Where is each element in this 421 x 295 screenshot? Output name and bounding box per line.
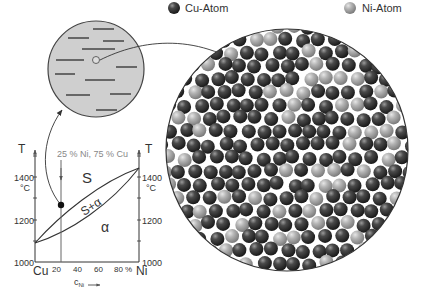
atom: [171, 165, 185, 179]
atom: [288, 124, 302, 138]
atom: [364, 71, 378, 85]
atom: [286, 257, 300, 271]
atom: [240, 46, 254, 60]
atom: [296, 245, 310, 259]
atom: [357, 164, 371, 178]
left-tick-1200: 1200: [14, 216, 34, 226]
atom: [359, 137, 373, 151]
left-unit: °C: [20, 183, 31, 193]
atom: [351, 72, 365, 86]
atom: [273, 125, 287, 139]
atom: [364, 96, 378, 110]
atom: [232, 189, 246, 203]
atom: [288, 204, 302, 218]
atom: [295, 217, 309, 231]
atom: [279, 163, 293, 177]
atom: [311, 136, 325, 150]
atom: [343, 137, 357, 151]
atom: [403, 110, 417, 124]
atom: [357, 113, 371, 127]
atom: [201, 57, 215, 71]
atom: [281, 59, 295, 73]
right-tick-1400: 1400: [142, 173, 162, 183]
atom: [203, 191, 217, 205]
atom: [301, 98, 315, 112]
atom: [366, 177, 380, 191]
atom: [217, 34, 231, 48]
atom: [212, 72, 226, 86]
atom: [325, 111, 339, 125]
atom: [248, 191, 262, 205]
state-point-marker: [58, 202, 64, 208]
atom: [232, 165, 246, 179]
atom: [387, 136, 401, 150]
atom: [162, 98, 176, 112]
atom: [201, 215, 215, 229]
atom: [301, 21, 315, 35]
left-axis-symbol: T: [18, 142, 26, 156]
atom: [359, 85, 373, 99]
atom: [372, 112, 386, 126]
atom: [341, 215, 355, 229]
x-tick-80: 80 %: [114, 265, 132, 274]
atom: [334, 202, 348, 216]
atom: [211, 177, 225, 191]
atom: [263, 192, 277, 206]
atom: [258, 125, 272, 139]
atom: [341, 163, 355, 177]
atom: [396, 98, 410, 112]
legend: Cu-Atom Ni-Atom: [168, 2, 402, 14]
atom: [257, 205, 271, 219]
atom: [257, 178, 271, 192]
atom: [189, 85, 203, 99]
atom: [249, 85, 263, 99]
atom: [335, 44, 349, 58]
atom: [188, 219, 202, 233]
atom: [302, 44, 316, 58]
atom: [302, 124, 316, 138]
atom: [266, 137, 280, 151]
atom: [294, 163, 308, 177]
atom: [273, 98, 287, 112]
atom: [178, 153, 192, 167]
atom: [390, 191, 404, 205]
atom: [232, 243, 246, 257]
atom: [204, 165, 218, 179]
atom: [286, 47, 300, 61]
atom: [250, 33, 264, 47]
atom: [325, 86, 339, 100]
region-two-phase-label: S+α: [78, 195, 104, 219]
composition-label: 25 % Ni, 75 % Cu: [57, 149, 128, 159]
atom: [305, 72, 319, 86]
atom: [326, 216, 340, 230]
atom: [309, 57, 323, 71]
atom: [311, 216, 325, 230]
atom: [296, 136, 310, 150]
atom: [319, 71, 333, 85]
atom: [265, 217, 279, 231]
atom: [335, 229, 349, 243]
x-right-label: Ni: [136, 264, 147, 278]
atom: [225, 149, 239, 163]
atom: [312, 112, 326, 126]
atom: [219, 57, 233, 71]
cu-atom-icon: [168, 2, 180, 14]
atom: [287, 230, 301, 244]
atom: [280, 83, 294, 97]
atom: [301, 230, 315, 244]
legend-cu-label: Cu-Atom: [185, 2, 228, 14]
atom: [255, 98, 269, 112]
atom: [193, 179, 207, 193]
atom: [162, 177, 176, 191]
atom: [287, 19, 301, 33]
x-axis-label: cNi: [74, 277, 84, 288]
atom: [327, 163, 341, 177]
atom: [232, 83, 246, 97]
atom: [170, 84, 184, 98]
atom: [242, 229, 256, 243]
atom: [242, 124, 256, 138]
atom: [273, 46, 287, 60]
atom: [180, 123, 194, 137]
atom: [219, 165, 233, 179]
left-tick-1000: 1000: [14, 258, 34, 268]
